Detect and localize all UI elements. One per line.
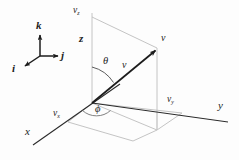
basis-triad <box>25 35 58 66</box>
vz-component-label: vz <box>73 6 80 17</box>
i-basis-label: i <box>12 63 15 74</box>
vector-decomposition-figure: vz z v v θ ϕ vx vy x y k j i <box>0 0 239 160</box>
k-basis-label: k <box>36 20 42 31</box>
y-axis-label: y <box>218 100 223 111</box>
vector-tip-label: v <box>161 33 165 43</box>
vy-component-label: vy <box>167 95 174 106</box>
plane-edge-far-proj <box>133 130 157 141</box>
vz-to-tip-line <box>92 17 157 48</box>
x-axis <box>33 84 120 145</box>
j-basis-label: j <box>61 50 64 61</box>
theta-arc <box>92 67 114 83</box>
i-basis-arrow <box>25 56 40 66</box>
theta-angle-label: θ <box>103 56 108 67</box>
phi-angle-label: ϕ <box>95 104 100 115</box>
y-axis <box>92 103 228 122</box>
plane-edge-vx-far <box>68 122 133 141</box>
vector-along-label: v <box>122 60 126 70</box>
z-axis-label: z <box>79 33 83 44</box>
coordinate-axes <box>33 84 228 145</box>
x-axis-label: x <box>25 126 30 137</box>
vx-component-label: vx <box>53 109 60 120</box>
